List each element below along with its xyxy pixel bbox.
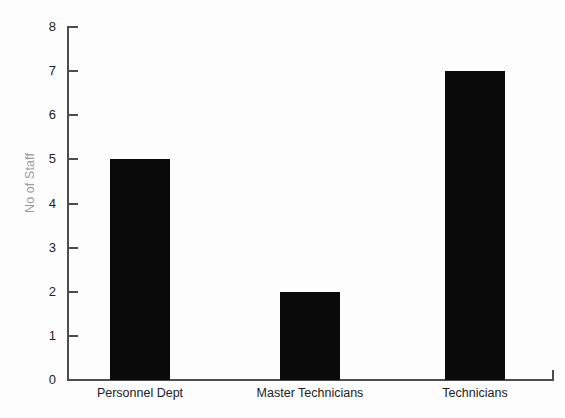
y-axis-tick-label: 5 (18, 152, 56, 165)
y-axis-title: No of Staff (22, 133, 38, 233)
y-axis-tick-label-text: 1 (18, 329, 56, 342)
y-axis-tick-label: 2 (18, 285, 56, 298)
bar (445, 71, 505, 380)
y-axis-tick-label-text: 6 (18, 108, 56, 121)
y-axis-tick-label-text: 3 (18, 241, 56, 254)
y-axis-tick (69, 379, 78, 381)
y-axis-tick-label-text: 7 (18, 64, 56, 77)
y-axis-tick-label: 1 (18, 329, 56, 342)
y-axis-tick (69, 203, 78, 205)
y-axis-tick-label: 3 (18, 241, 56, 254)
x-axis-category-label: Technicians (375, 385, 565, 401)
y-axis-tick (69, 114, 78, 116)
y-axis-tick-label: 7 (18, 64, 56, 77)
y-axis-tick-label: 6 (18, 108, 56, 121)
x-axis-end-tick (552, 370, 554, 381)
y-axis-tick-label-text: 2 (18, 285, 56, 298)
y-axis-tick (69, 247, 78, 249)
y-axis-tick-label: 4 (18, 197, 56, 210)
bar-chart: No of Staff 012345678 Personnel DeptMast… (0, 0, 565, 418)
y-axis-tick (69, 26, 78, 28)
bar (110, 159, 170, 380)
y-axis-tick-label-text: 8 (18, 20, 56, 33)
bar (280, 292, 340, 380)
y-axis-tick (69, 335, 78, 337)
y-axis-tick-label-text: 5 (18, 152, 56, 165)
y-axis-tick (69, 158, 78, 160)
y-axis-tick (69, 291, 78, 293)
y-axis-tick-label: 8 (18, 20, 56, 33)
y-axis-tick (69, 70, 78, 72)
y-axis-tick-label-text: 4 (18, 197, 56, 210)
